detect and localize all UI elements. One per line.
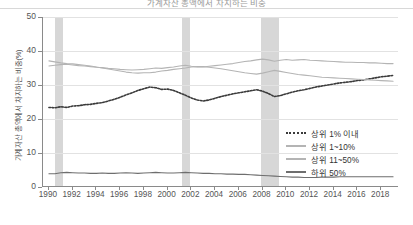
x-tick-label: 1990 <box>39 190 57 199</box>
legend-item[interactable]: 상위 1~10% <box>286 139 408 152</box>
series-line <box>49 75 393 107</box>
x-tick-label: 2018 <box>371 190 389 199</box>
legend-swatch <box>286 128 306 137</box>
legend-swatch <box>286 141 306 150</box>
x-tick-mark <box>72 187 73 190</box>
legend-swatch <box>286 154 306 163</box>
y-tick-label: 50 <box>8 11 36 21</box>
x-tick-label: 1998 <box>134 190 152 199</box>
legend-label: 상위 11~50% <box>311 153 359 165</box>
x-tick-mark <box>356 187 357 190</box>
x-tick-label: 2000 <box>157 190 175 199</box>
x-tick-label: 1992 <box>63 190 81 199</box>
x-tick-mark <box>190 187 191 190</box>
chart-legend: 상위 1% 이내상위 1~10%상위 11~50%하위 50% <box>286 124 408 180</box>
x-tick-mark <box>95 187 96 190</box>
y-tick-label: 30 <box>8 79 36 89</box>
y-tick-label: 10 <box>8 147 36 157</box>
y-tick-label: 0 <box>8 181 36 191</box>
y-tick-label: 20 <box>8 113 36 123</box>
x-tick-mark <box>262 187 263 190</box>
x-tick-label: 1994 <box>86 190 104 199</box>
legend-label: 상위 1% 이내 <box>311 127 359 139</box>
x-tick-mark <box>119 187 120 190</box>
x-tick-label: 2012 <box>300 190 318 199</box>
x-tick-mark <box>238 187 239 190</box>
legend-item[interactable]: 하위 50% <box>286 165 408 178</box>
legend-label: 하위 50% <box>311 166 346 178</box>
x-tick-label: 2016 <box>347 190 365 199</box>
series-line <box>49 61 393 81</box>
legend-item[interactable]: 상위 1% 이내 <box>286 126 408 139</box>
title-divider <box>0 8 413 9</box>
x-tick-mark <box>333 187 334 190</box>
chart-root: 가계자산 총액에서 차지하는 비중 가계자산 총액에서 차지하는 비중(%) 0… <box>0 0 413 225</box>
x-tick-mark <box>143 187 144 190</box>
y-tick-mark <box>38 187 42 188</box>
x-tick-mark <box>48 187 49 190</box>
x-tick-label: 1996 <box>110 190 128 199</box>
x-tick-mark <box>167 187 168 190</box>
legend-swatch <box>286 167 306 176</box>
x-tick-mark <box>214 187 215 190</box>
y-tick-label: 40 <box>8 45 36 55</box>
x-tick-label: 2002 <box>181 190 199 199</box>
x-tick-label: 2006 <box>229 190 247 199</box>
x-tick-label: 2014 <box>324 190 342 199</box>
chart-title: 가계자산 총액에서 차지하는 비중 <box>0 0 413 8</box>
x-tick-label: 2010 <box>276 190 294 199</box>
x-tick-mark <box>285 187 286 190</box>
x-tick-mark <box>380 187 381 190</box>
x-tick-label: 2004 <box>205 190 223 199</box>
legend-label: 상위 1~10% <box>311 140 355 152</box>
x-tick-label: 2008 <box>252 190 270 199</box>
x-tick-mark <box>309 187 310 190</box>
legend-item[interactable]: 상위 11~50% <box>286 152 408 165</box>
